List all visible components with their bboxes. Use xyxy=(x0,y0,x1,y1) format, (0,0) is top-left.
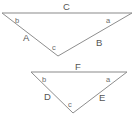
lower-triangle-angle-top-right-label: a xyxy=(106,76,110,84)
upper-triangle-shape xyxy=(2,13,132,56)
lower-triangle-side-top-label: F xyxy=(75,62,81,72)
upper-triangle-right-edge xyxy=(58,13,132,56)
upper-triangle-angle-top-left-label: b xyxy=(15,17,19,25)
upper-triangle-angle-apex-label: c xyxy=(52,44,56,52)
lower-triangle-angle-apex-label: c xyxy=(68,101,72,109)
upper-triangle-side-top-label: C xyxy=(63,2,70,12)
upper-triangle-left-edge xyxy=(2,13,58,56)
lower-triangle-side-left-label: D xyxy=(44,92,51,102)
upper-triangle-angle-top-right-label: a xyxy=(106,17,110,25)
similar-triangles-figure: C A B b a c F D E b a c xyxy=(0,0,137,119)
upper-triangle-side-left-label: A xyxy=(23,33,29,43)
lower-triangle-left-edge xyxy=(31,72,73,113)
upper-triangle-side-right-label: B xyxy=(96,38,102,48)
lower-triangle-side-right-label: E xyxy=(99,93,105,103)
lower-triangle-angle-top-left-label: b xyxy=(42,76,46,84)
